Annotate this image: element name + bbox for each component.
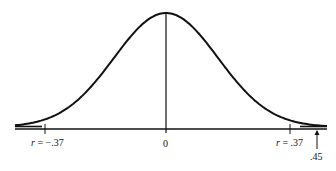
arrow-up-icon bbox=[315, 130, 320, 135]
label-045: .45 bbox=[310, 152, 323, 162]
pos-r-value: = .37 bbox=[280, 137, 303, 148]
label-neg-r: r = −.37 bbox=[31, 138, 64, 148]
label-zero: 0 bbox=[163, 139, 168, 149]
bell-curve bbox=[15, 13, 327, 126]
label-pos-r: r = .37 bbox=[276, 138, 303, 148]
neg-r-value: = −.37 bbox=[35, 137, 64, 148]
